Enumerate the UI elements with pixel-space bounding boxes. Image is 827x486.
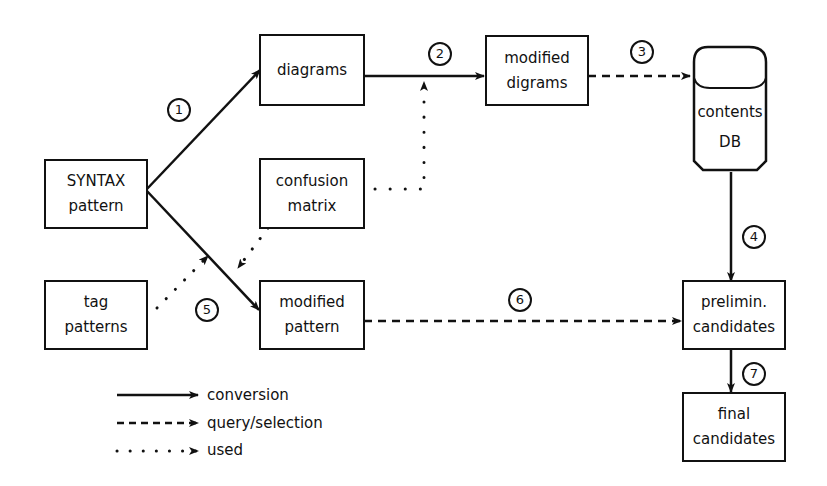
step-marker-1: 1: [167, 98, 191, 122]
node-label-line: pattern: [68, 194, 123, 219]
node-label-line: prelimin.: [701, 290, 767, 315]
step-marker-6: 6: [508, 288, 532, 312]
node-label-line: patterns: [65, 315, 128, 340]
node-label-line: SYNTAX: [67, 169, 125, 194]
node-label-line: digrams: [507, 71, 568, 96]
legend-label-query-selection: query/selection: [207, 414, 323, 432]
edge-confusion-to-digram-conversion: [375, 82, 424, 189]
step-marker-2: 2: [428, 42, 452, 66]
node-label-line: modified: [279, 290, 345, 315]
node-tag-patterns: tag patterns: [44, 280, 148, 350]
node-final-candidates: final candidates: [682, 392, 786, 462]
node-syntax-pattern: SYNTAX pattern: [44, 159, 148, 229]
legend-label-used: used: [207, 441, 243, 459]
node-confusion-matrix: confusion matrix: [259, 158, 365, 229]
step-marker-5: 5: [195, 298, 219, 322]
step-marker-4: 4: [742, 225, 766, 249]
node-label-line: diagrams: [277, 58, 347, 83]
node-modified-digrams: modified digrams: [485, 35, 589, 106]
edge-confusion-to-pattern-conversion: [238, 228, 268, 268]
node-contents-db: contents DB: [694, 47, 766, 171]
node-label-line: final: [718, 402, 750, 427]
node-label-line: contents: [694, 97, 766, 128]
node-label-line: DB: [694, 127, 766, 158]
legend-label-conversion: conversion: [207, 386, 289, 404]
node-diagrams: diagrams: [259, 34, 365, 106]
node-label-line: modified: [504, 46, 570, 71]
node-label-line: pattern: [284, 315, 339, 340]
node-label-line: confusion: [276, 169, 348, 194]
node-label-line: candidates: [693, 427, 775, 452]
step-marker-7: 7: [742, 362, 766, 386]
step-marker-3: 3: [630, 40, 654, 64]
node-label-line: candidates: [693, 315, 775, 340]
node-label-line: matrix: [288, 194, 337, 219]
node-prelimin-candidates: prelimin. candidates: [682, 280, 786, 350]
node-label-line: tag: [84, 290, 109, 315]
node-modified-pattern: modified pattern: [259, 280, 365, 350]
edge-syntax-to-modified-pattern: [146, 190, 259, 310]
edge-syntax-to-diagrams: [146, 70, 260, 190]
